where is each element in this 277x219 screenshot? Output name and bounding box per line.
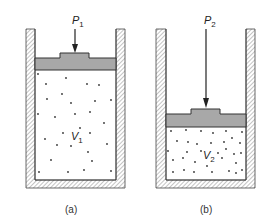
pressure-arrow-a [72,29,78,53]
gas-particles-a [37,73,112,173]
gas-compression-diagram: P1 V1 (a) P2 [0,0,277,219]
piston-b [166,109,246,127]
panel-a: P1 V1 (a) [26,14,125,215]
panel-b: P2 V2 (b) [156,14,255,215]
pressure-label-p2: P2 [204,14,216,29]
volume-label-v2: V2 [203,149,215,164]
caption-b: (b) [200,204,212,215]
piston-a [35,53,116,70]
caption-a: (a) [65,204,77,215]
pressure-arrow-b [203,29,209,108]
pressure-label-p1: P1 [72,14,84,29]
volume-label-v1: V1 [71,130,83,145]
